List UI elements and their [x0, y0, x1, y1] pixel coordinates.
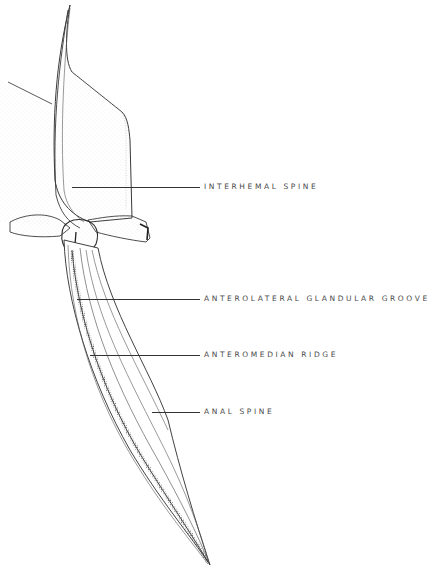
label-anterolateral-glandular-groove: ANTEROLATERAL GLANDULAR GROOVE — [204, 295, 430, 303]
leader-line-anal-spine — [152, 412, 200, 413]
anal-spine-illustration — [0, 0, 441, 571]
fin-membrane — [0, 80, 52, 225]
interhemal-spine-shape — [54, 5, 132, 228]
leader-line-anteromedian-ridge — [90, 355, 200, 356]
leader-line-interhemal-spine — [72, 187, 200, 188]
label-anteromedian-ridge: ANTEROMEDIAN RIDGE — [204, 351, 338, 359]
label-interhemal-spine: INTERHEMAL SPINE — [204, 183, 318, 191]
anal-spine-shape — [64, 240, 210, 565]
label-anal-spine: ANAL SPINE — [204, 408, 274, 416]
leader-line-anterolateral-glandular-groove — [77, 299, 200, 300]
